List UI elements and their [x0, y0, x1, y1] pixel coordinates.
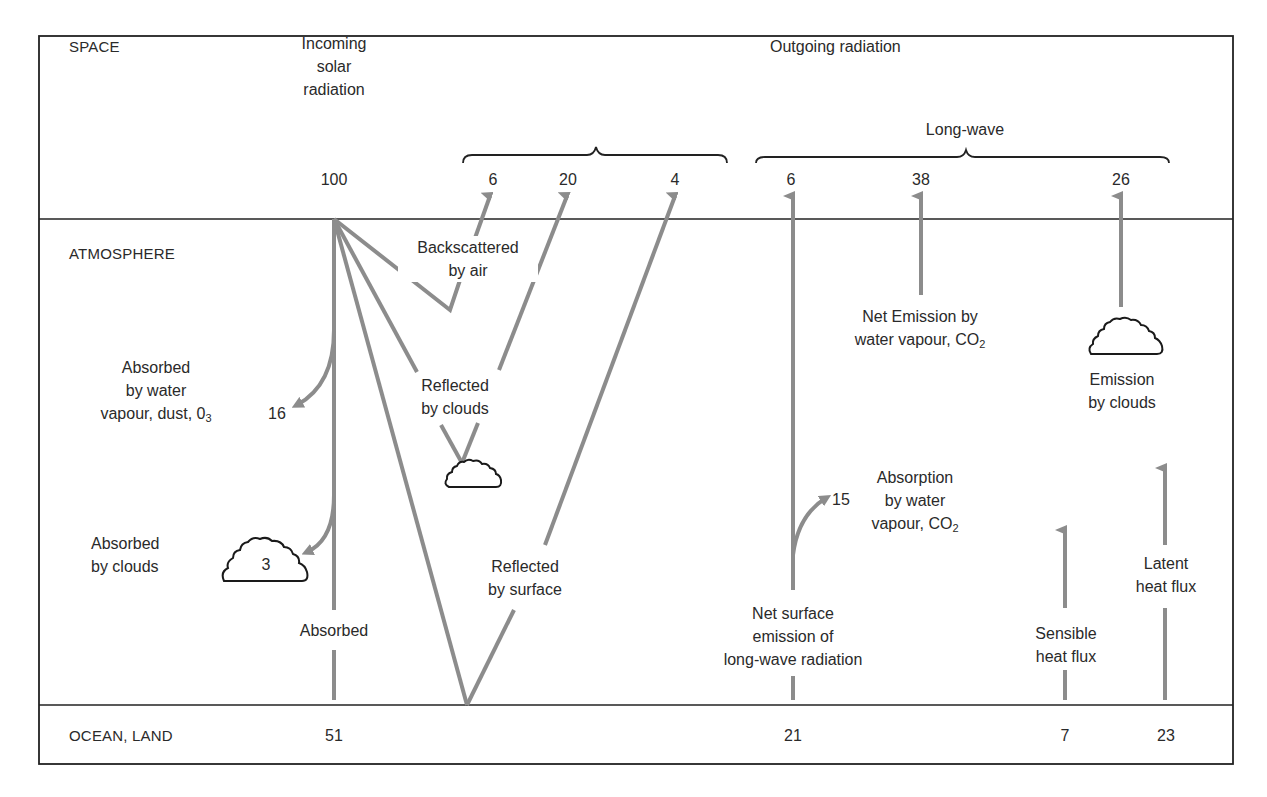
- absorbed-clouds-arrow: [307, 495, 334, 552]
- cloud-icon-reflect: [445, 460, 501, 487]
- value-reflected-surface: 4: [660, 168, 690, 191]
- value-absorbed-clouds: 3: [253, 553, 279, 576]
- value-absorption-vapour: 15: [829, 488, 853, 511]
- label-sensible-heat: Sensible heat flux: [1024, 622, 1108, 668]
- value-sensible: 7: [1050, 724, 1080, 747]
- reflected-surface-arrow: [545, 196, 675, 545]
- absorption-vapour-arrow: [793, 498, 826, 555]
- label-absorbed-clouds: Absorbed by clouds: [91, 532, 160, 578]
- shortwave-brace: [463, 147, 727, 163]
- value-surface-longwave-net: 21: [773, 724, 813, 747]
- label-reflected-surface: Reflected by surface: [470, 555, 580, 601]
- section-space: SPACE: [69, 35, 120, 58]
- label-net-surface-emission: Net surface emission of long-wave radiat…: [720, 602, 866, 671]
- outgoing-header: Outgoing radiation: [770, 35, 901, 58]
- value-absorbed-vapour: 16: [262, 402, 292, 425]
- from-surface-path: [467, 610, 514, 705]
- earth-energy-budget-diagram: SPACE ATMOSPHERE OCEAN, LAND Incoming so…: [0, 0, 1267, 797]
- label-emission-clouds: Emission by clouds: [1080, 368, 1164, 414]
- label-backscattered: Backscattered by air: [398, 236, 538, 282]
- label-reflected-clouds: Reflected by clouds: [405, 374, 505, 420]
- to-cloud-path-lower: [441, 425, 462, 463]
- value-net-emission: 38: [903, 168, 939, 191]
- longwave-header: Long-wave: [920, 118, 1010, 141]
- section-atmosphere: ATMOSPHERE: [69, 242, 175, 265]
- incoming-header: Incoming solar radiation: [284, 32, 384, 101]
- value-surface-absorbed: 51: [314, 724, 354, 747]
- value-reflected-clouds: 20: [553, 168, 583, 191]
- value-incoming: 100: [304, 168, 364, 191]
- longwave-brace: [756, 150, 1169, 163]
- label-net-emission: Net Emission by water vapour, CO2: [840, 305, 1000, 351]
- from-cloud-path: [462, 423, 478, 463]
- value-surface-longwave: 6: [776, 168, 806, 191]
- label-absorption-vapour: Absorption by water vapour, CO2: [855, 466, 975, 535]
- section-surface: OCEAN, LAND: [69, 724, 173, 747]
- value-emission-clouds: 26: [1103, 168, 1139, 191]
- absorbed-vapour-arrow: [297, 330, 334, 405]
- cloud-icon-emission: [1089, 318, 1162, 354]
- label-absorbed-vapour: Absorbed by water vapour, dust, 03: [76, 356, 236, 425]
- value-backscattered: 6: [478, 168, 508, 191]
- label-absorbed: Absorbed: [284, 619, 384, 642]
- label-latent-heat: Latent heat flux: [1124, 552, 1208, 598]
- value-latent: 23: [1148, 724, 1184, 747]
- reflected-clouds-arrow: [499, 196, 567, 370]
